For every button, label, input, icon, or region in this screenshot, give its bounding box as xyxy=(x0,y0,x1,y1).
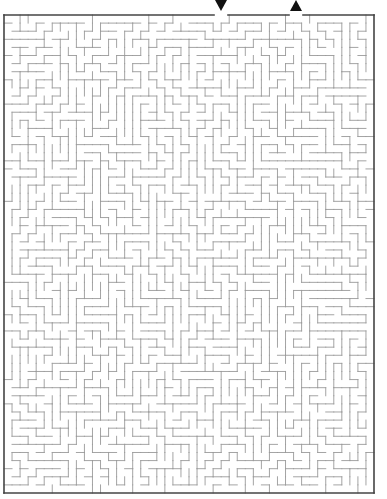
maze-puzzle xyxy=(0,0,387,499)
maze-walls xyxy=(4,15,374,493)
maze-grid xyxy=(0,0,387,499)
start-arrow-icon xyxy=(215,0,227,11)
finish-arrow-icon xyxy=(290,0,302,11)
